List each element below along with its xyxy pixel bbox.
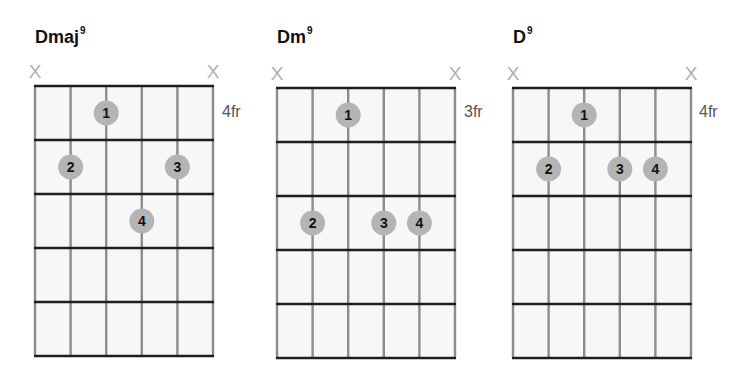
grid-background [513,88,691,358]
finger-number: 1 [344,107,352,123]
finger-number: 2 [309,215,317,231]
finger-number: 1 [580,107,588,123]
chord-grid-1: XX1234 [271,63,462,358]
finger-number: 4 [652,161,660,177]
muted-string-x-icon: X [507,63,520,84]
finger-dot: 3 [607,157,632,182]
chord-diagram-d9: D9 4fr [0,0,250,379]
finger-number: 2 [545,161,553,177]
chord-name: D [513,27,526,47]
muted-string-x-icon: X [685,63,698,84]
start-fret-label: 3fr [464,103,483,121]
chord-superscript: 9 [527,25,533,36]
finger-number: 3 [380,215,388,231]
finger-dot: 2 [536,157,561,182]
muted-string-x-icon: X [449,63,462,84]
finger-dot: 4 [407,211,432,236]
chord-title: D9 [513,27,533,48]
finger-dot: 1 [336,103,361,128]
chord-name: Dm [277,27,306,47]
grid-background [277,88,455,358]
finger-number: 3 [616,161,624,177]
finger-dot: 4 [643,157,668,182]
finger-dot: 1 [572,103,597,128]
chord-title: Dm9 [277,27,313,48]
finger-dot: 3 [371,211,396,236]
chord-superscript: 9 [307,25,313,36]
finger-number: 4 [416,215,424,231]
finger-dot: 2 [300,211,325,236]
chord-grid-2: XX1234 [507,63,698,358]
start-fret-label: 4fr [699,103,718,121]
muted-string-x-icon: X [271,63,284,84]
